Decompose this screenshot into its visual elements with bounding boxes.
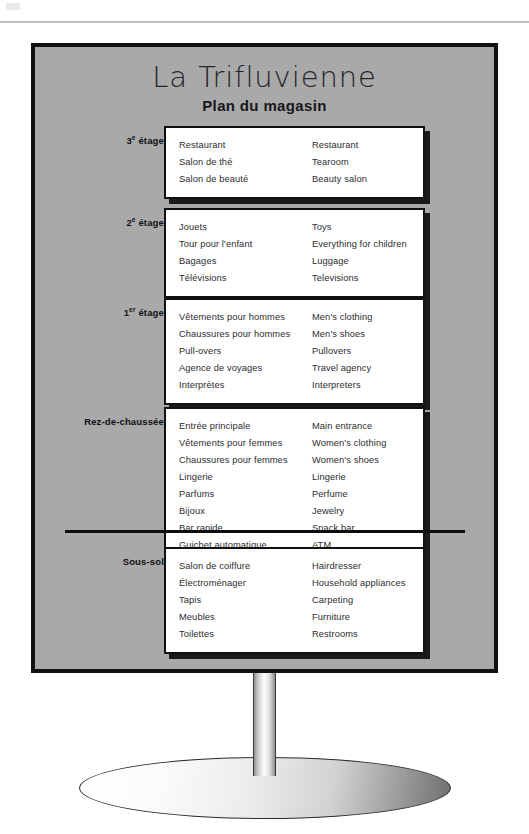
floor-listing-box-third-floor: RestaurantRestaurantSalon de théTearoomS… [164,126,425,199]
directory-entry: ParfumsPerfume [166,486,423,503]
entry-label-en: Household appliances [312,575,405,592]
entry-label-en: Women's shoes [312,452,379,469]
entry-label-en: Toys [312,219,332,236]
floor-listing-box-second-floor: JouetsToysTour pour l'enfantEverything f… [164,208,425,298]
directory-subtitle: Plan du magasin [35,97,494,114]
entry-label-fr: Télévisions [179,270,227,287]
sign-panel: La Trifluvienne Plan du magasin 3e étage… [31,43,498,673]
directory-entry: MeublesFurniture [166,609,423,626]
entry-label-en: Men's clothing [312,309,373,326]
entry-label-fr: Jouets [179,219,207,236]
listing-box: Vêtements pour hommesMen's clothingChaus… [164,298,425,405]
floor-word: Rez-de-chaussée [84,416,164,427]
directory-entry: BijouxJewelry [166,503,423,520]
entry-label-fr: Tapis [179,592,201,609]
entry-label-en: Beauty salon [312,171,367,188]
directory-entry: JouetsToys [166,219,423,236]
floor-label-ground-floor: Rez-de-chaussée [35,416,164,427]
entry-label-fr: Salon de beauté [179,171,248,188]
entry-label-fr: Chaussures pour femmes [179,452,288,469]
entry-label-fr: Chaussures pour hommes [179,326,290,343]
entry-label-en: Main entrance [312,418,372,435]
floor-word: Sous-sol [123,556,164,567]
floor-word: étage [136,307,164,318]
floor-label-second-floor: 2e étage [35,217,164,228]
entry-label-fr: Bar rapide [179,520,223,537]
entry-label-fr: Pull-overs [179,343,221,360]
floor-listing-box-ground-floor: Entrée principaleMain entranceVêtements … [164,407,425,565]
directory-entry: RestaurantRestaurant [166,137,423,154]
entry-label-en: Jewelry [312,503,344,520]
entry-label-en: Interpreters [312,377,361,394]
entry-label-en: Snack bar [312,520,355,537]
directory-entry: ToilettesRestrooms [166,626,423,643]
entry-label-fr: Salon de thé [179,154,232,171]
sign-post [253,672,276,776]
listing-box: Entrée principaleMain entranceVêtements … [164,407,425,565]
entry-label-fr: Vêtements pour femmes [179,435,282,452]
entry-label-fr: Restaurant [179,137,225,154]
entry-label-en: Lingerie [312,469,346,486]
listing-box: Salon de coiffureHairdresserÉlectroménag… [164,547,425,654]
floor-word: étage [136,135,164,146]
directory-entry: BagagesLuggage [166,253,423,270]
directory-entry: Salon de coiffureHairdresser [166,558,423,575]
directory-entry: Chaussures pour femmesWomen's shoes [166,452,423,469]
directory-entry: Agence de voyagesTravel agency [166,360,423,377]
entry-label-en: Restaurant [312,137,358,154]
directory-entry: TélévisionsTelevisions [166,270,423,287]
entry-label-en: Pullovers [312,343,351,360]
ground-basement-divider [65,530,465,533]
entry-label-en: Women's clothing [312,435,387,452]
directory-entry: Bar rapideSnack bar [166,520,423,537]
floor-label-first-floor: 1er étage [35,307,164,318]
entry-label-en: Hairdresser [312,558,361,575]
entry-label-en: Furniture [312,609,350,626]
entry-label-fr: Salon de coiffure [179,558,250,575]
entry-label-fr: Meubles [179,609,215,626]
entry-label-fr: Agence de voyages [179,360,262,377]
directory-entry: TapisCarpeting [166,592,423,609]
entry-label-en: Televisions [312,270,359,287]
entry-label-en: Carpeting [312,592,353,609]
entry-label-fr: Parfums [179,486,214,503]
entry-label-fr: Électroménager [179,575,246,592]
directory-entry: Tour pour l'enfantEverything for childre… [166,236,423,253]
directory-entry: Pull-oversPullovers [166,343,423,360]
entry-label-fr: Vêtements pour hommes [179,309,285,326]
entry-label-en: Perfume [312,486,348,503]
directory-entry: InterprètesInterpreters [166,377,423,394]
directory-entry: Salon de théTearoom [166,154,423,171]
floor-label-third-floor: 3e étage [35,135,164,146]
directory-entry: LingerieLingerie [166,469,423,486]
entry-label-fr: Bijoux [179,503,205,520]
entry-label-en: Everything for children [312,236,407,253]
listing-box: JouetsToysTour pour l'enfantEverything f… [164,208,425,298]
entry-label-en: Men's shoes [312,326,365,343]
floor-word: étage [136,217,164,228]
store-name-title: La Trifluvienne [35,60,494,94]
floor-listing-box-basement: Salon de coiffureHairdresserÉlectroménag… [164,547,425,654]
entry-label-fr: Interprètes [179,377,225,394]
directory-entry: ÉlectroménagerHousehold appliances [166,575,423,592]
entry-label-fr: Tour pour l'enfant [179,236,252,253]
entry-label-fr: Entrée principale [179,418,250,435]
entry-label-en: Tearoom [312,154,349,171]
listing-box: RestaurantRestaurantSalon de théTearoomS… [164,126,425,199]
floor-listing-box-first-floor: Vêtements pour hommesMen's clothingChaus… [164,298,425,405]
entry-label-en: Luggage [312,253,349,270]
entry-label-en: Restrooms [312,626,358,643]
directory-entry: Vêtements pour femmesWomen's clothing [166,435,423,452]
floor-label-basement: Sous-sol [35,556,164,567]
directory-entry: Vêtements pour hommesMen's clothing [166,309,423,326]
directory-entry: Salon de beautéBeauty salon [166,171,423,188]
entry-label-en: Travel agency [312,360,371,377]
store-directory-sign: La Trifluvienne Plan du magasin 3e étage… [0,0,529,834]
directory-entry: Entrée principaleMain entrance [166,418,423,435]
directory-entry: Chaussures pour hommesMen's shoes [166,326,423,343]
entry-label-fr: Lingerie [179,469,213,486]
entry-label-fr: Toilettes [179,626,214,643]
entry-label-fr: Bagages [179,253,216,270]
